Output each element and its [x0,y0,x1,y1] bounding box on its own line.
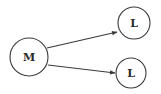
node-m: M [10,38,48,76]
node-label: L [130,17,138,30]
edge-arrow-m-to-l2 [48,65,115,73]
node-label: L [127,67,135,80]
node-label: M [23,51,35,64]
node-l2: L [116,58,146,88]
node-l1: L [118,7,150,39]
edge-arrow-m-to-l1 [47,32,117,48]
diagram-canvas: MLL [0,0,161,94]
